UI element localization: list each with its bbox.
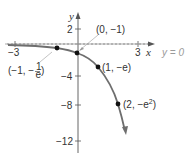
point-label-neg1-main: (−1, −	[8, 65, 34, 76]
graph-canvas: −3 3 2 −4 −8 −12 y x y = 0 (0, −1) (1, −…	[0, 0, 193, 164]
point-label-2-main: (2, −e	[123, 99, 149, 110]
y-axis-label: y	[68, 10, 74, 22]
tick-label-y-2: 2	[67, 24, 73, 35]
point-0	[75, 51, 80, 56]
point-label-2-close: )	[153, 99, 156, 110]
point-label-2: (2, −e2)	[123, 98, 156, 110]
curve	[8, 45, 125, 131]
point-label-1: (1, −e)	[102, 62, 131, 73]
y-axis-arrow-icon	[76, 12, 81, 19]
tick-label-x-neg3: −3	[8, 47, 20, 58]
tick-label-y-neg4: −4	[61, 71, 73, 82]
tick-label-x-3: 3	[135, 47, 141, 58]
leader-line-neg1	[40, 52, 52, 62]
point-label-neg1-close: )	[41, 65, 44, 76]
point-2	[116, 102, 121, 107]
point-label-0: (0, −1)	[96, 24, 125, 35]
tick-label-y-neg12: −12	[56, 136, 73, 147]
curve-arrow-icon	[122, 126, 128, 135]
point-1	[96, 65, 101, 70]
asymptote-label: y = 0	[161, 47, 184, 58]
point-neg1	[55, 46, 60, 51]
tick-label-y-neg8: −8	[61, 100, 73, 111]
x-axis-label: x	[145, 46, 151, 58]
point-label-neg1: (−1, − 1 e )	[8, 61, 44, 80]
